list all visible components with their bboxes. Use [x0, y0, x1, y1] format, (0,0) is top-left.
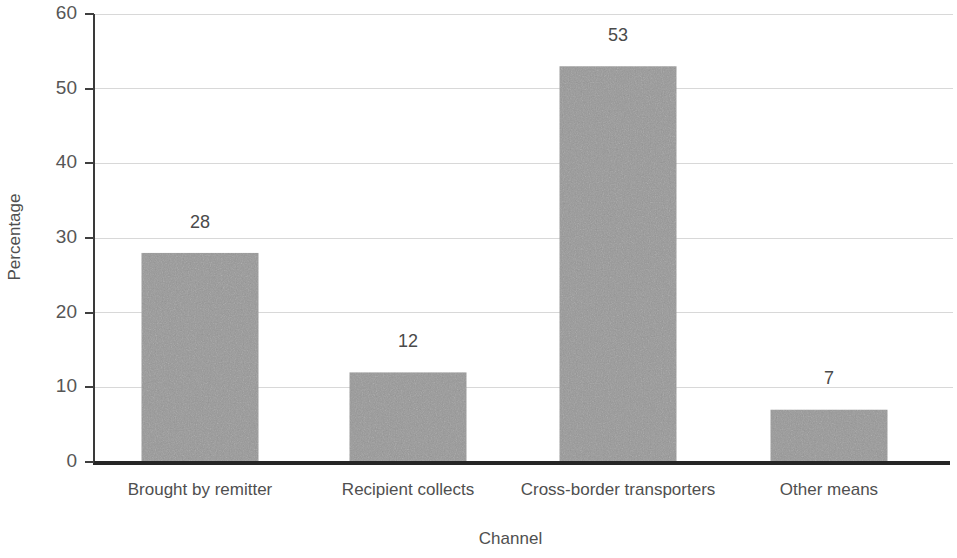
chart-canvas: 0102030405060 2812537 Brought by remitte…: [0, 0, 957, 558]
x-axis-title: Channel: [479, 529, 542, 548]
x-category-label: Brought by remitter: [128, 480, 273, 499]
bar-value-label: 28: [190, 212, 210, 232]
y-tick-label: 60: [56, 2, 77, 23]
x-category-label: Cross-border transporters: [521, 480, 716, 499]
bar-value-label: 12: [398, 331, 418, 351]
y-tick-label: 20: [56, 301, 77, 322]
bar: [142, 253, 259, 462]
bar-value-label: 53: [608, 25, 628, 45]
bar-chart-figure: 0102030405060 2812537 Brought by remitte…: [0, 0, 957, 558]
bar: [560, 66, 677, 462]
y-tick-label: 10: [56, 375, 77, 396]
y-tick-label: 40: [56, 151, 77, 172]
bar: [350, 372, 467, 462]
y-tick-label: 50: [56, 77, 77, 98]
y-tick-label: 0: [66, 450, 77, 471]
x-category-label: Other means: [780, 480, 878, 499]
x-category-label: Recipient collects: [342, 480, 474, 499]
y-axis-title: Percentage: [5, 194, 24, 281]
bar: [771, 410, 888, 462]
y-tick-label: 30: [56, 226, 77, 247]
bar-value-label: 7: [824, 368, 834, 388]
